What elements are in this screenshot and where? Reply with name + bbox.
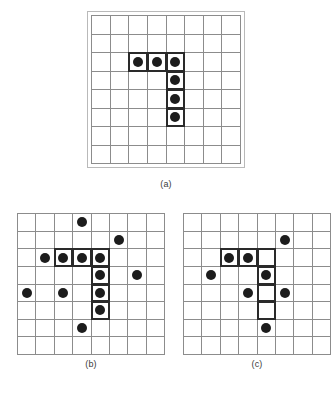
- grid-cell: [167, 146, 185, 164]
- grid-dot: [152, 57, 162, 67]
- grid-cell: [294, 285, 311, 302]
- grid-cell: [204, 53, 222, 71]
- grid-dot: [114, 235, 124, 245]
- grid-cell: [313, 302, 330, 319]
- grid-cell: [222, 90, 240, 108]
- grid-cell: [313, 249, 330, 266]
- grid-cell: [184, 267, 201, 284]
- grid-cell: [313, 232, 330, 249]
- grid-cell: [202, 337, 219, 354]
- grid-cell: [148, 53, 166, 71]
- grid-cell: [129, 53, 147, 71]
- grid-cell: [313, 285, 330, 302]
- grid-cell: [184, 337, 201, 354]
- grid-cell: [110, 285, 127, 302]
- grid-dot: [261, 270, 271, 280]
- grid-cell: [221, 267, 238, 284]
- grid-dot: [58, 288, 68, 298]
- grid-dot: [170, 57, 180, 67]
- grid-cell: [185, 127, 203, 145]
- grid-cell: [36, 249, 53, 266]
- grid-cell: [276, 320, 293, 337]
- grid-cell: [239, 267, 256, 284]
- grid-cell: [221, 320, 238, 337]
- grid-cell: [128, 267, 145, 284]
- grid-cell: [276, 337, 293, 354]
- grid-dot: [95, 305, 105, 315]
- grid-cell: [221, 337, 238, 354]
- grid-dot: [22, 288, 32, 298]
- grid-cell: [128, 249, 145, 266]
- grid-cell: [184, 232, 201, 249]
- grid-cell: [202, 267, 219, 284]
- grid-cell: [92, 320, 109, 337]
- grid-cell: [294, 232, 311, 249]
- panel-a: (a): [87, 11, 245, 168]
- grid-cell: [73, 320, 90, 337]
- grid-cell: [184, 302, 201, 319]
- grid-cell: [92, 90, 110, 108]
- grid-cell: [294, 249, 311, 266]
- grid-cell: [18, 285, 35, 302]
- grid-cell: [128, 302, 145, 319]
- grid-cell: [92, 302, 109, 319]
- grid-cell: [202, 214, 219, 231]
- grid-dot: [95, 288, 105, 298]
- grid-cell: [18, 302, 35, 319]
- grid-cell: [294, 214, 311, 231]
- grid-cell: [167, 72, 185, 90]
- grid-cell: [128, 320, 145, 337]
- grid-dot: [170, 112, 180, 122]
- grid-cell: [167, 16, 185, 34]
- grid-cell: [92, 16, 110, 34]
- grid-cell: [148, 90, 166, 108]
- grid-cell: [239, 214, 256, 231]
- grid-cell: [147, 249, 164, 266]
- grid-dot: [77, 253, 87, 263]
- grid-cell: [18, 214, 35, 231]
- grid-cell: [148, 146, 166, 164]
- panel-b-grid: [17, 213, 165, 355]
- grid-cell: [92, 249, 109, 266]
- grid-cell: [36, 232, 53, 249]
- grid-cell: [239, 302, 256, 319]
- grid-cell: [202, 232, 219, 249]
- grid-cell: [18, 249, 35, 266]
- grid-cell: [202, 320, 219, 337]
- panel-b: (b): [17, 213, 165, 355]
- grid-cell: [167, 127, 185, 145]
- grid-cell: [185, 146, 203, 164]
- grid-cell: [185, 16, 203, 34]
- grid-cell: [92, 232, 109, 249]
- grid-dot: [40, 253, 50, 263]
- grid-cell: [111, 146, 129, 164]
- grid-cell: [221, 285, 238, 302]
- grid-cell: [147, 267, 164, 284]
- grid-cell: [204, 109, 222, 127]
- grid-cell: [110, 232, 127, 249]
- grid-cell: [313, 214, 330, 231]
- grid-cell: [128, 337, 145, 354]
- grid-cell: [258, 337, 275, 354]
- grid-cell: [111, 35, 129, 53]
- grid-cell: [111, 90, 129, 108]
- grid-cell: [55, 249, 72, 266]
- grid-cell: [128, 285, 145, 302]
- grid-cell: [294, 337, 311, 354]
- grid-cell: [222, 146, 240, 164]
- grid-dot: [280, 288, 290, 298]
- grid-cell: [204, 35, 222, 53]
- grid-cell: [222, 53, 240, 71]
- grid-cell: [73, 267, 90, 284]
- panel-a-grid-wrap: [91, 15, 241, 164]
- grid-cell: [110, 249, 127, 266]
- grid-cell: [73, 214, 90, 231]
- grid-cell: [55, 337, 72, 354]
- panel-c-grid: [183, 213, 331, 355]
- grid-cell: [92, 337, 109, 354]
- panel-c: (c): [183, 213, 331, 355]
- grid-cell: [148, 16, 166, 34]
- grid-cell: [18, 337, 35, 354]
- grid-cell: [313, 337, 330, 354]
- grid-dot: [95, 270, 105, 280]
